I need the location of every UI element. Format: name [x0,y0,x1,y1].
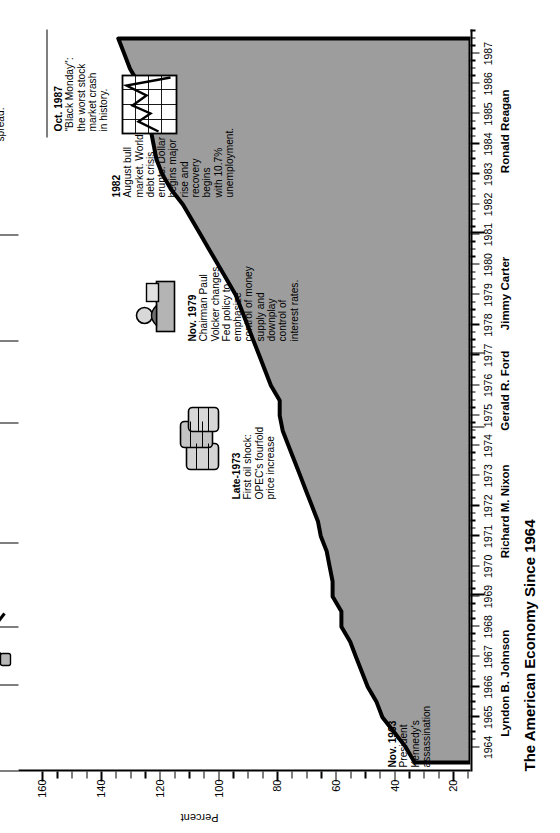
annotation-body: President Kennedy's assassination [397,681,431,767]
x-tick-minor [470,74,475,75]
y-tick-minor [71,771,72,778]
y-tick-minor [86,771,87,778]
y-tick-minor [262,771,263,778]
y-tick-minor [232,771,233,778]
x-tick-label: 1987 [481,33,493,73]
x-tick-minor [470,708,475,709]
x-tick-minor [470,391,475,392]
x-tick [470,715,479,716]
x-tick-minor [470,271,475,272]
x-tick-minor [470,663,475,664]
x-tick-minor [470,308,475,309]
x-tick-minor [470,550,475,551]
plot-area: Percent 20406080100120140160 19641965196… [18,29,470,771]
x-tick-minor [470,557,475,558]
x-tick-minor [470,700,475,701]
x-tick-minor [470,670,475,671]
x-tick [470,142,479,143]
y-tick-label: 80 [271,779,281,809]
x-tick [470,323,479,324]
x-tick-minor [470,105,475,106]
y-tick-minor [144,771,145,778]
annotation-body: Federal deficit hits $195 billion. Dolla… [0,45,5,141]
x-tick-minor [470,610,475,611]
x-tick [470,82,479,83]
annotation-nov1979: Nov. 1979 Chairman Paul Volcker changes … [186,241,299,341]
stock-crash-chart-icon [120,73,178,135]
president-label-ronald-reagan: Ronald Reagan [498,51,510,211]
president-divider [470,593,484,594]
x-tick-minor [470,429,475,430]
x-tick-minor [470,527,475,528]
x-tick-minor [470,632,475,633]
y-tick-minor [174,771,175,778]
x-tick [470,474,479,475]
x-tick-minor [470,519,475,520]
x-tick-minor [470,369,475,370]
x-tick-minor [470,90,475,91]
y-tick-minor [423,771,424,778]
leader-1979 [0,340,18,341]
x-tick-minor [470,731,475,732]
x-tick-minor [470,316,475,317]
y-tick-minor [130,771,131,778]
x-tick-minor [470,210,475,211]
annotation-title: Nov. 1963 [386,720,397,767]
annotation-1983: 1983 Federal deficit hits $195 billion. … [0,45,5,141]
x-tick-minor [470,572,475,573]
annotation-body: Chairman Paul Volcker changes Fed policy… [197,241,299,341]
x-tick-minor [470,157,475,158]
y-tick-minor [115,771,116,778]
y-tick-minor [379,771,380,778]
x-tick-minor [470,693,475,694]
president-divider [470,426,484,427]
x-tick-minor [470,482,475,483]
x-tick-minor [470,489,475,490]
x-tick [470,685,479,686]
x-tick-minor [470,542,475,543]
x-tick-minor [470,640,475,641]
x-tick [470,504,479,505]
leader-mid1960s [0,684,18,685]
x-tick-minor [470,399,475,400]
y-tick-minor [364,771,365,778]
x-tick-minor [470,512,475,513]
x-tick-minor [470,602,475,603]
x-tick-minor [470,376,475,377]
leader-july1981 [0,234,18,235]
x-tick-minor [470,218,475,219]
x-tick-minor [470,361,475,362]
x-tick-minor [470,459,475,460]
x-tick [470,655,479,656]
annotation-late1973: Late-1973 First oil shock: OPEC's fourfo… [230,399,275,499]
x-tick-minor [470,436,475,437]
x-tick [470,414,479,415]
x-tick-minor [470,29,475,30]
x-tick-minor [470,587,475,588]
x-tick-minor [470,240,475,241]
x-tick [470,203,479,204]
x-tick [470,172,479,173]
x-tick-minor [470,165,475,166]
x-tick-minor [470,648,475,649]
volcker-desk-icon [130,277,178,335]
x-tick-minor [470,338,475,339]
y-tick-minor [247,771,248,778]
x-tick-minor [470,127,475,128]
x-tick-minor [470,278,475,279]
president-label-jimmy-carter: Jimmy Carter [498,213,510,373]
y-axis-title: Percent [180,811,218,823]
y-tick-minor [438,771,439,778]
leader-1974-75 [0,422,18,423]
x-tick-minor [470,421,475,422]
x-tick [470,625,479,626]
x-tick-minor [470,150,475,151]
y-tick-minor [306,771,307,778]
y-tick-label: 100 [213,779,223,809]
x-tick-minor [470,723,475,724]
x-tick-minor [470,467,475,468]
x-tick-minor [470,255,475,256]
y-tick-minor [203,771,204,778]
rotated-chart-canvas: Percent 20406080100120140160 19641965196… [0,0,560,833]
x-tick-minor [470,331,475,332]
